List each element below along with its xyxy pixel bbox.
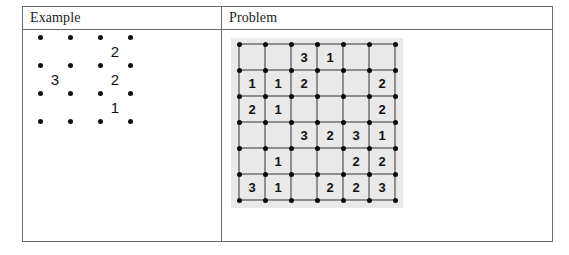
problem-dot — [393, 198, 398, 203]
problem-clue: 3 — [352, 129, 359, 142]
example-dot — [38, 119, 43, 124]
problem-dot — [315, 198, 320, 203]
problem-clue: 2 — [378, 77, 385, 90]
problem-dot — [237, 198, 242, 203]
problem-dot — [367, 42, 372, 47]
example-dot — [38, 63, 43, 68]
problem-clue: 2 — [352, 155, 359, 168]
problem-dot — [315, 120, 320, 125]
problem-dot — [289, 198, 294, 203]
problem-clue: 1 — [248, 77, 255, 90]
problem-dot — [263, 94, 268, 99]
problem-dot — [237, 94, 242, 99]
example-clue: 1 — [111, 100, 119, 115]
problem-dot — [237, 172, 242, 177]
problem-dot — [341, 120, 346, 125]
problem-dot — [341, 94, 346, 99]
problem-dot — [367, 68, 372, 73]
example-dot — [98, 35, 103, 40]
example-dot — [68, 119, 73, 124]
problem-dot — [341, 42, 346, 47]
problem-dot — [341, 68, 346, 73]
example-dot — [128, 35, 133, 40]
example-dot — [98, 63, 103, 68]
problem-dot — [289, 94, 294, 99]
example-cell: 2321 — [23, 30, 221, 242]
problem-dot — [393, 120, 398, 125]
problem-dot — [289, 146, 294, 151]
problem-dot — [237, 42, 242, 47]
problem-dot — [263, 120, 268, 125]
example-dot — [128, 91, 133, 96]
problem-dot — [393, 68, 398, 73]
problem-clue: 3 — [300, 129, 307, 142]
example-dot — [68, 91, 73, 96]
problem-dot — [315, 68, 320, 73]
problem-clue: 1 — [378, 129, 385, 142]
problem-dot — [315, 172, 320, 177]
problem-clue: 1 — [274, 155, 281, 168]
problem-clue: 2 — [248, 103, 255, 116]
problem-clue: 1 — [274, 181, 281, 194]
problem-dot — [367, 146, 372, 151]
example-dot — [68, 35, 73, 40]
problem-dot — [263, 198, 268, 203]
problem-clue: 2 — [352, 181, 359, 194]
problem-dot — [263, 146, 268, 151]
table-header-row: Example Problem — [23, 7, 552, 30]
problem-dot — [315, 146, 320, 151]
problem-dot — [393, 42, 398, 47]
problem-dot — [393, 94, 398, 99]
problem-clue: 1 — [326, 51, 333, 64]
table-header-example-label: Example — [23, 10, 80, 26]
problem-clue: 2 — [378, 155, 385, 168]
problem-clue: 2 — [326, 129, 333, 142]
problem-dot — [263, 68, 268, 73]
problem-dot — [289, 68, 294, 73]
problem-dot — [289, 172, 294, 177]
problem-dot — [393, 146, 398, 151]
example-dot — [128, 63, 133, 68]
example-dot — [128, 119, 133, 124]
problem-dot — [263, 172, 268, 177]
problem-dot — [341, 146, 346, 151]
problem-clue: 3 — [378, 181, 385, 194]
example-dot — [98, 119, 103, 124]
problem-clue: 3 — [248, 181, 255, 194]
problem-dot — [237, 68, 242, 73]
example-dot — [68, 63, 73, 68]
problem-dot — [237, 146, 242, 151]
problem-clue: 1 — [274, 77, 281, 90]
problem-dot — [289, 42, 294, 47]
example-dot — [38, 35, 43, 40]
problem-grid-backdrop: 311122212323112231223 — [231, 38, 403, 208]
problem-dot — [393, 172, 398, 177]
problem-dot — [367, 172, 372, 177]
table-header-problem-label: Problem — [222, 10, 277, 26]
problem-dot — [289, 120, 294, 125]
problem-dot — [367, 94, 372, 99]
problem-clue: 2 — [326, 181, 333, 194]
problem-dot — [367, 120, 372, 125]
problem-clue: 2 — [300, 77, 307, 90]
example-clue: 2 — [111, 72, 119, 87]
problem-clue: 2 — [378, 103, 385, 116]
problem-dot — [263, 42, 268, 47]
problem-dot — [341, 198, 346, 203]
table-body-row: 2321 311122212323112231223 — [23, 30, 552, 242]
example-dot — [98, 91, 103, 96]
problem-dot — [315, 42, 320, 47]
problem-dot — [341, 172, 346, 177]
problem-dot — [315, 94, 320, 99]
table-header-problem: Problem — [221, 7, 554, 29]
example-clue: 2 — [111, 44, 119, 59]
problem-dot — [237, 120, 242, 125]
example-dot — [38, 91, 43, 96]
problem-cell: 311122212323112231223 — [221, 30, 554, 242]
example-clue: 3 — [51, 72, 59, 87]
table-header-example: Example — [23, 7, 221, 29]
problem-clue: 3 — [300, 51, 307, 64]
problem-clue: 1 — [274, 103, 281, 116]
problem-dot — [367, 198, 372, 203]
puzzle-table: Example Problem 2321 3111222123231122312… — [22, 6, 553, 242]
